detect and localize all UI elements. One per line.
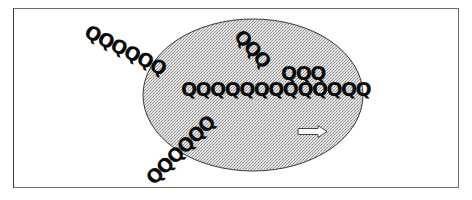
q-string-horizontal-row: QQQQQQQQQQQQQ xyxy=(181,78,372,100)
q-string-upper-left-diagonal: QQQQQQ xyxy=(81,20,171,80)
q-string-top-row: QQQ xyxy=(281,62,326,84)
diagram-canvas: QQQQQQ QQQQQQQQQQQQQ QQQ QQQ QQQQQQ xyxy=(0,0,472,200)
